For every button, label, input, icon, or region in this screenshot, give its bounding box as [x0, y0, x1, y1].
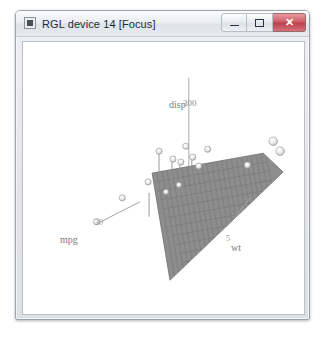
axis-tick-disp-300: 300: [183, 98, 197, 108]
data-point: [170, 156, 176, 162]
rgl-app-icon: [24, 17, 36, 29]
data-point: [190, 154, 196, 160]
data-point: [196, 163, 202, 169]
axis-tick-wt-5: 5: [226, 234, 230, 243]
axis-tick-mpg-30: 30: [95, 218, 103, 227]
data-point: [119, 195, 125, 201]
minimize-icon: [230, 25, 239, 26]
scene-svg: [23, 42, 304, 314]
close-icon: ✕: [285, 17, 294, 28]
window-titlebar[interactable]: RGL device 14 [Focus] ✕: [16, 11, 309, 37]
data-point: [183, 143, 189, 149]
regression-plane: [152, 153, 299, 280]
data-point: [244, 162, 250, 168]
window-title: RGL device 14 [Focus]: [42, 15, 156, 33]
data-point: [276, 147, 285, 156]
maximize-icon: [255, 19, 264, 27]
data-point: [269, 137, 278, 146]
maximize-button[interactable]: [247, 13, 273, 32]
rgl-canvas-frame[interactable]: disp 300 mpg 30 wt 5: [22, 41, 305, 315]
close-button[interactable]: ✕: [273, 13, 306, 32]
minimize-button[interactable]: [221, 13, 247, 32]
axis-label-mpg: mpg: [60, 234, 78, 245]
data-point: [145, 179, 151, 185]
axis-label-wt: wt: [231, 242, 241, 253]
data-point: [163, 189, 168, 194]
rgl-3d-scene[interactable]: disp 300 mpg 30 wt 5: [23, 42, 304, 314]
window-controls: ✕: [221, 13, 306, 33]
data-point: [156, 148, 162, 154]
rgl-device-window[interactable]: RGL device 14 [Focus] ✕: [15, 10, 310, 320]
data-point: [205, 146, 211, 152]
screenshot-root: RGL device 14 [Focus] ✕: [0, 0, 323, 338]
data-point: [176, 182, 181, 187]
data-point: [178, 159, 184, 165]
